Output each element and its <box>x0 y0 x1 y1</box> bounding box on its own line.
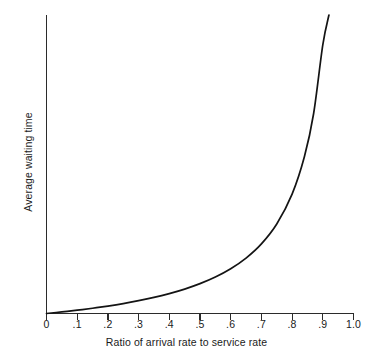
x-tick-label-0.3: .3 <box>123 318 155 330</box>
y-axis-title: Average waiting time <box>22 72 34 252</box>
x-tick-label-0.5: .5 <box>184 318 216 330</box>
x-tick-label-1.0: 1.0 <box>338 318 370 330</box>
x-tick-label-0: 0 <box>31 318 63 330</box>
x-tick-label-0.7: .7 <box>245 318 277 330</box>
x-axis-title: Ratio of arrival rate to service rate <box>0 336 373 348</box>
x-tick-label-0.6: .6 <box>215 318 247 330</box>
x-tick-label-0.4: .4 <box>153 318 185 330</box>
chart-figure: 0 .1 .2 .3 .4 .5 .6 .7 .8 .9 1.0 Ratio o… <box>0 0 373 361</box>
x-tick-label-0.9: .9 <box>307 318 339 330</box>
x-tick-label-0.2: .2 <box>92 318 124 330</box>
x-tick-label-0.8: .8 <box>276 318 308 330</box>
x-tick-label-0.1: .1 <box>61 318 93 330</box>
plot-canvas <box>0 0 373 361</box>
waiting-time-curve <box>47 15 329 314</box>
